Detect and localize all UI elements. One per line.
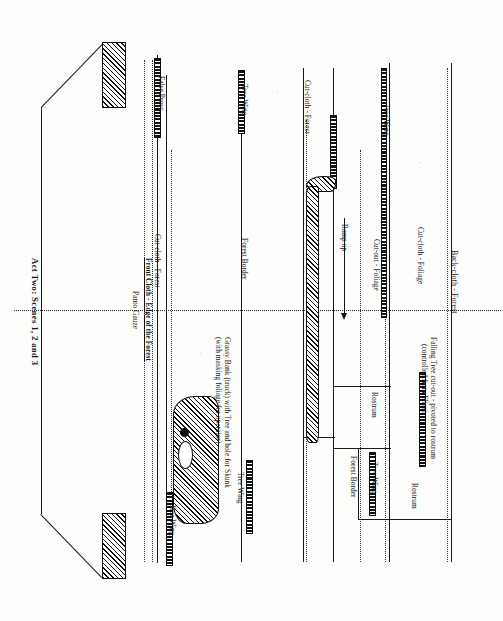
stage-plan-sheet: Act Two: Scenes 1, 2 and 3 False Prosc. … (0, 0, 503, 621)
label-forest-border-right: Forest Border (348, 456, 357, 498)
false-prosc-wall-bottom (102, 513, 126, 579)
label-front-cloth: Front Cloth - Edge of the Forest (143, 258, 152, 361)
label-backcloth-forest: Back-cloth - Forest (450, 250, 459, 314)
label-cutcloth-forest-mid: Cut-cloth - Forest (302, 80, 311, 134)
label-tree-wing-1: Tree Wing (239, 84, 248, 116)
rostrum-step-edge-1 (333, 386, 391, 387)
false-prosc-wall-top (102, 42, 126, 108)
rostrum-right-return (358, 448, 359, 520)
grassy-bank-tree-position (180, 428, 189, 437)
batten-tree-wing-2 (246, 460, 253, 534)
label-tree-wing-4: Tree Wing (381, 104, 390, 136)
label-rostrum-2: Rostrum (409, 483, 418, 509)
cutcloth-foliage-line (389, 63, 390, 562)
flybar-dotted-7 (447, 68, 448, 562)
front-cloth-line (166, 75, 167, 563)
label-tree-wing-3: Tree Wing (167, 504, 176, 536)
skunk-hole (178, 441, 193, 469)
label-rostrum-1: Rostrum (369, 392, 378, 418)
boundary-diagonal-upstage-bottom (40, 514, 102, 578)
label-false-prosc: False Prosc. (156, 76, 165, 112)
stage-centre-line (14, 310, 501, 311)
rostrum-lower-edge (358, 519, 452, 520)
cutcloth-forest-mid-line (303, 68, 304, 562)
ramp-arrow-head (341, 313, 347, 320)
flybar-dotted-5 (360, 150, 361, 562)
label-falling-tree-line1: Falling Tree cut-out - pivoted to rostru… (428, 337, 437, 459)
paper-speck-c (200, 353, 201, 354)
label-falling-tree-line2: (controlled from Flies) (419, 344, 428, 413)
label-cutcloth-forest-left: Cut-cloth - Forest (152, 234, 161, 288)
label-cutcloth-foliage: Cut-cloth - Foliage (415, 227, 424, 284)
cutcloth-forest-ragged-strip (306, 186, 319, 443)
label-tree-wing-5: Tree Wing (369, 462, 378, 494)
paper-speck-a (277, 92, 278, 93)
label-tree-wing-2: Tree Wing (235, 472, 244, 504)
label-ramp-up: Ramp up (339, 224, 348, 251)
label-grassy-bank-line2: (with masking foliage for operator) (213, 337, 222, 443)
label-panto-gauze: Panto Gauze (130, 291, 139, 329)
rostrum-step-edge-2 (333, 448, 391, 449)
paper-speck-b (420, 162, 421, 163)
label-grassy-bank-line1: Grassy Bank (truck) with Tree and hole f… (222, 337, 231, 488)
page-title: Act Two: Scenes 1, 2 and 3 (30, 258, 40, 365)
label-forest-border-left: Forest Border (239, 238, 248, 280)
boundary-diagonal-upstage-top (41, 44, 103, 108)
label-cutout-foliage: Cut-out - Foliage (371, 239, 380, 291)
